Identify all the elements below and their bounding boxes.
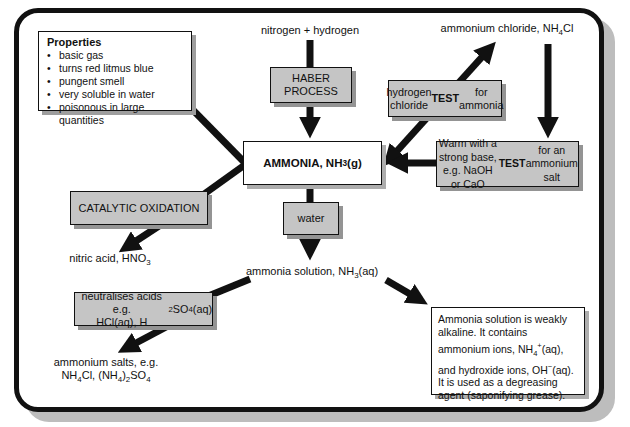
list-item: •poisonous in large quantities [47, 101, 185, 127]
bullet-icon: • [47, 75, 54, 88]
ammonia-concept-diagram: Properties •basic gas •turns red litmus … [0, 0, 630, 427]
bullet-icon: • [47, 88, 54, 101]
property-text: basic gas [59, 49, 103, 62]
property-text: turns red litmus blue [59, 62, 154, 75]
properties-title: Properties [47, 36, 185, 49]
ammonia-solution-note-box: Ammonia solution is weakly alkaline. It … [431, 307, 585, 395]
bullet-icon: • [47, 49, 54, 62]
list-item: •turns red litmus blue [47, 62, 185, 75]
note-text: Ammonia solution is weakly alkaline. It … [438, 313, 578, 402]
label-ammonia-solution: ammonia solution, NH3(aq) [238, 265, 386, 282]
label-nitric-acid: nitric acid, HNO3 [58, 252, 162, 269]
label-ammonium-salts: ammonium salts, e.g.NH4Cl, (NH4)2SO4 [44, 356, 168, 386]
warm-strong-base-test-box: Warm with a strong base,e.g. NaOH or CaO… [436, 141, 579, 187]
bullet-icon: • [47, 62, 54, 75]
property-text: very soluble in water [59, 88, 155, 101]
property-text: pungent smell [59, 75, 124, 88]
catalytic-oxidation-box: CATALYTIC OXIDATION [70, 191, 208, 225]
label-ammonium-chloride: ammonium chloride, NH4Cl [438, 22, 576, 39]
haber-process-box: HABERPROCESS [270, 67, 352, 103]
water-box: water [283, 202, 339, 235]
label-nitrogen-plus-hydrogen: nitrogen + hydrogen [235, 24, 385, 37]
properties-box: Properties •basic gas •turns red litmus … [38, 31, 192, 111]
list-item: •pungent smell [47, 75, 185, 88]
neutralises-acids-box: neutralises acids e.g.HCl(aq), H2SO4(aq) [74, 292, 213, 326]
list-item: •very soluble in water [47, 88, 185, 101]
hydrogen-chloride-test-box: hydrogen chlorideTEST for ammonia [388, 80, 502, 117]
ammonia-box: AMMONIA, NH3(g) [243, 141, 382, 185]
bullet-icon: • [47, 101, 54, 127]
property-text: poisonous in large quantities [59, 101, 185, 127]
list-item: •basic gas [47, 49, 185, 62]
